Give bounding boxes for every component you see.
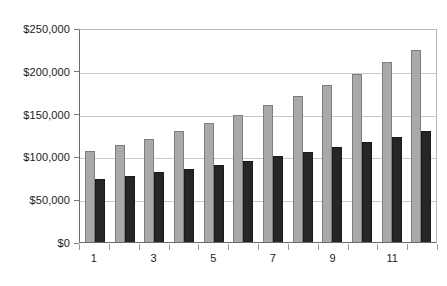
y-tick-label: $250,000 [23,23,74,35]
bar-series-b [95,179,105,242]
bars-layer [80,30,436,242]
x-tick-mark [228,244,229,250]
bar-group [347,30,377,242]
x-tick-label: 1 [91,252,97,264]
x-tick-marks [79,244,437,250]
bar-group [228,30,258,242]
bar-series-b [421,131,431,242]
x-tick-mark [318,244,319,250]
bar-series-b [154,172,164,242]
y-tick: $150,000 [23,109,79,121]
x-tick-label: 9 [330,252,336,264]
bar-group [80,30,110,242]
bar-group [288,30,318,242]
y-tick: $0 [58,237,79,249]
y-tick: $100,000 [23,151,79,163]
bar-chart: $0$50,000$100,000$150,000$200,000$250,00… [0,0,447,286]
x-tick-mark [139,244,140,250]
x-tick-label: 5 [210,252,216,264]
y-tick-label: $100,000 [23,151,74,163]
y-axis: $0$50,000$100,000$150,000$200,000$250,00… [0,29,79,243]
y-tick-label: $150,000 [23,109,74,121]
y-tick-label: $50,000 [30,194,74,206]
x-tick-mark [198,244,199,250]
bar-series-a [382,62,392,242]
bar-group [258,30,288,242]
bar-series-a [411,50,421,242]
bar-series-b [392,137,402,242]
bar-series-a [174,131,184,242]
x-tick-mark [437,244,438,250]
x-tick-mark [407,244,408,250]
bar-series-b [243,161,253,242]
y-tick-label: $0 [58,237,74,249]
bar-group [199,30,229,242]
bar-group [110,30,140,242]
bar-series-a [263,105,273,242]
y-tick-label: $200,000 [23,66,74,78]
x-tick-mark [79,244,80,250]
bar-series-b [332,147,342,242]
bar-series-a [204,123,214,242]
x-tick-label: 7 [270,252,276,264]
x-tick-mark [377,244,378,250]
x-tick-mark [348,244,349,250]
x-tick-mark [109,244,110,250]
bar-series-b [214,165,224,242]
y-tick: $50,000 [30,194,79,206]
bar-series-a [322,85,332,242]
bar-group [377,30,407,242]
bar-series-b [125,176,135,242]
bar-series-a [352,74,362,242]
bar-series-b [273,156,283,242]
y-tick: $250,000 [23,23,79,35]
bar-group [139,30,169,242]
x-tick-mark [288,244,289,250]
bar-series-a [115,145,125,242]
bar-series-a [233,115,243,242]
bar-group [169,30,199,242]
x-axis: 1357911 [79,244,437,284]
x-tick-mark [258,244,259,250]
bar-series-b [362,142,372,242]
bar-series-b [184,169,194,242]
bar-series-a [85,151,95,242]
x-tick-mark [169,244,170,250]
bar-series-a [293,96,303,242]
x-tick-label: 3 [151,252,157,264]
bar-series-b [303,152,313,242]
plot-area [79,29,437,243]
bar-group [406,30,436,242]
y-tick: $200,000 [23,66,79,78]
bar-group [317,30,347,242]
x-tick-label: 11 [387,252,398,264]
x-tick-labels: 1357911 [79,252,437,272]
bar-series-a [144,139,154,242]
